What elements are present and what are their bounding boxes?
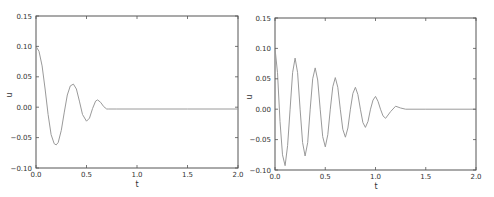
- y-tick-label: 0.00: [255, 106, 271, 114]
- right-x-axis-label: t: [374, 182, 377, 191]
- right-y-axis-label: u: [245, 94, 254, 99]
- x-tick-label: 0.5: [320, 173, 331, 181]
- x-tick-label: 0.0: [269, 173, 280, 181]
- x-tick-label: 1.5: [420, 173, 431, 181]
- x-tick-label: 2.0: [470, 173, 481, 181]
- right-plot-frame: [275, 18, 476, 170]
- x-tick-label: 1.0: [370, 173, 381, 181]
- y-tick-label: 0.05: [255, 75, 271, 83]
- right-chart: 0.150.100.050.00−0.05−0.10 0.00.51.01.52…: [0, 0, 494, 197]
- y-tick-label: −0.05: [250, 136, 271, 144]
- right-chart-svg: 0.150.100.050.00−0.05−0.10 0.00.51.01.52…: [0, 0, 494, 197]
- y-tick-label: 0.15: [255, 15, 271, 23]
- right-plot-area: [275, 18, 476, 170]
- y-tick-label: −0.10: [250, 167, 271, 175]
- y-tick-label: 0.10: [255, 45, 271, 53]
